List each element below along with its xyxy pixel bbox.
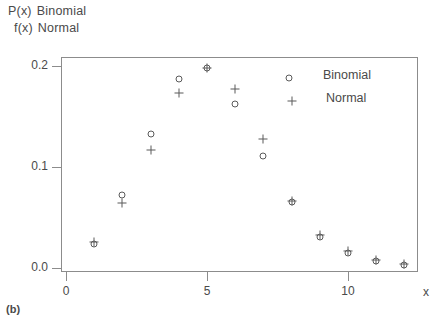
y-axis-symbol-fx: f(x) [14,21,33,35]
plus-marker-icon [286,95,298,107]
y-tick-label: 0.2 [14,58,48,72]
x-tick-mark [348,272,349,281]
x-tick-mark [66,272,67,281]
y-axis-symbol-px: P(x) [8,4,32,18]
y-tick-mark [52,66,61,67]
y-axis-text-binomial: Binomial [37,4,87,18]
x-tick-label: 10 [333,284,363,298]
y-axis-text-normal: Normal [38,21,79,35]
legend-label-normal: Normal [326,91,366,105]
y-axis-caption-binomial: P(x)Binomial [8,3,86,20]
legend-label-binomial: Binomial [323,68,371,82]
figure-caption: (b) [6,303,20,315]
y-tick-label: 0.1 [14,159,48,173]
x-axis-label: x [423,285,429,299]
y-tick-mark [52,268,61,269]
legend-item-binomial: Binomial [283,68,403,91]
circle-marker-icon [283,72,295,84]
y-tick-label: 0.0 [14,260,48,274]
chart-figure: P(x)Binomial f(x)Normal 0.00.10.2 0510 x… [0,0,438,325]
y-tick-mark [52,167,61,168]
legend: Binomial Normal [283,68,403,114]
x-tick-mark [207,272,208,281]
y-axis-caption-normal: f(x)Normal [14,20,79,37]
x-tick-label: 5 [192,284,222,298]
legend-item-normal: Normal [283,91,403,114]
x-tick-label: 0 [51,284,81,298]
